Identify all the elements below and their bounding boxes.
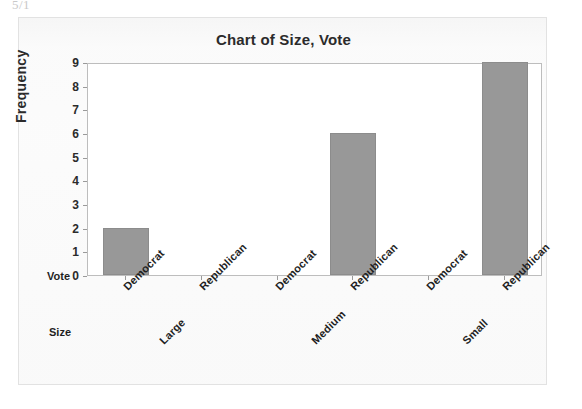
bar xyxy=(330,133,376,275)
y-tick-label: 0 xyxy=(72,269,79,283)
y-tick-label: 7 xyxy=(72,103,79,117)
y-tick-label: 5 xyxy=(72,151,79,165)
y-tick-label: 2 xyxy=(72,222,79,236)
y-tick-label: 8 xyxy=(72,80,79,94)
vote-row-label: Vote xyxy=(47,270,70,282)
scanned-page: 5/1 Chart of Size, Vote 0123456789 Frequ… xyxy=(0,0,582,409)
size-group-label: Small xyxy=(460,317,490,347)
y-tick-label: 3 xyxy=(72,198,79,212)
cropped-page-text: 5/1 xyxy=(12,0,30,13)
size-row-label: Size xyxy=(49,326,71,338)
y-tick-label: 9 xyxy=(72,56,79,70)
y-axis: 0123456789 xyxy=(59,63,87,276)
y-tick-label: 4 xyxy=(72,174,79,188)
size-group-label: Large xyxy=(157,316,187,346)
y-tick-label: 1 xyxy=(72,245,79,259)
y-tick-label: 6 xyxy=(72,127,79,141)
size-group-label: Medium xyxy=(309,308,348,347)
chart-title: Chart of Size, Vote xyxy=(19,31,548,48)
y-axis-title: Frequency xyxy=(13,50,29,124)
bars-layer xyxy=(88,64,541,275)
bar xyxy=(482,62,528,275)
x-axis-labels: DemocratRepublicanDemocratRepublicanDemo… xyxy=(87,276,542,386)
chart-figure-frame: Chart of Size, Vote 0123456789 Frequency… xyxy=(18,17,547,385)
plot-area xyxy=(87,63,542,276)
